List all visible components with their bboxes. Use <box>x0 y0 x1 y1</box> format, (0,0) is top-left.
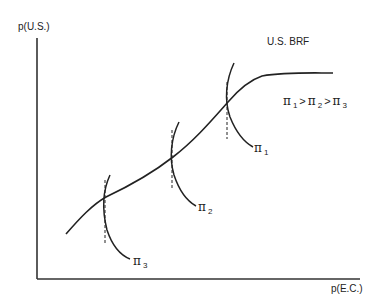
y-axis-label: p(U.S.) <box>18 21 50 32</box>
x-axis-label: p(E.C.) <box>331 283 363 294</box>
isoprofit-curve-pi2 <box>171 122 196 206</box>
pi3-label: π3 <box>133 254 147 270</box>
diagram-canvas <box>0 0 382 307</box>
isoprofit-curve-pi1 <box>227 63 253 147</box>
brf-label: U.S. BRF <box>267 36 309 47</box>
ordering-label: π1>π2>π3 <box>283 94 347 110</box>
pi2-label: π2 <box>198 200 212 216</box>
pi1-label: π1 <box>254 141 268 157</box>
